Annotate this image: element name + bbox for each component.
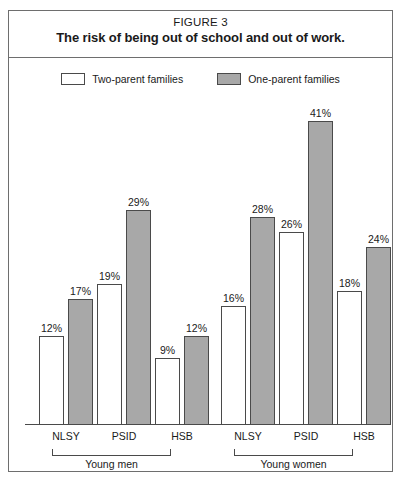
category-label-psid-1: PSID bbox=[96, 430, 152, 442]
bar bbox=[308, 121, 333, 425]
white-square-icon bbox=[61, 73, 85, 85]
bar-value-label: 19% bbox=[91, 270, 128, 282]
group-axis: Young menYoung women bbox=[25, 449, 378, 479]
group-bracket-icon bbox=[234, 449, 353, 456]
bar-value-label: 18% bbox=[331, 277, 368, 289]
category-axis: NLSYPSIDHSBNLSYPSIDHSB bbox=[25, 430, 378, 446]
bar-chart-plot-area: 12%17%19%29%9%12%16%28%26%41%18%24% bbox=[25, 106, 378, 425]
group-label: Young women bbox=[234, 458, 353, 470]
bar bbox=[337, 291, 362, 425]
figure-number: FIGURE 3 bbox=[9, 16, 392, 28]
bar-value-label: 16% bbox=[215, 292, 252, 304]
category-label-nlsy-3: NLSY bbox=[220, 430, 276, 442]
bar-value-label: 41% bbox=[302, 107, 339, 119]
bar-value-label: 28% bbox=[244, 203, 281, 215]
category-label-nlsy-0: NLSY bbox=[38, 430, 94, 442]
category-label-psid-4: PSID bbox=[278, 430, 334, 442]
bar bbox=[279, 232, 304, 425]
bar-value-label: 12% bbox=[178, 322, 215, 334]
group-bracket-icon bbox=[52, 449, 171, 456]
bar-value-label: 9% bbox=[149, 344, 186, 356]
bar bbox=[68, 299, 93, 425]
legend-item-two-parent: Two-parent families bbox=[61, 73, 183, 85]
page-title: The risk of being out of school and out … bbox=[9, 30, 392, 45]
bar bbox=[221, 306, 246, 425]
bar bbox=[39, 336, 64, 425]
category-label-hsb-5: HSB bbox=[336, 430, 392, 442]
bar-value-label: 24% bbox=[360, 233, 397, 245]
category-label-hsb-2: HSB bbox=[154, 430, 210, 442]
legend-item-one-parent: One-parent families bbox=[217, 73, 340, 85]
bar-value-label: 29% bbox=[120, 196, 157, 208]
group-bracket-container: Young women bbox=[234, 449, 353, 470]
figure-panel: FIGURE 3 The risk of being out of school… bbox=[8, 10, 393, 472]
bar-value-label: 26% bbox=[273, 218, 310, 230]
chart-legend: Two-parent families One-parent families bbox=[9, 73, 392, 85]
bar bbox=[366, 247, 391, 425]
bar bbox=[184, 336, 209, 425]
group-bracket-container: Young men bbox=[52, 449, 171, 470]
figure-title-block: FIGURE 3 The risk of being out of school… bbox=[9, 11, 392, 58]
bar bbox=[155, 358, 180, 425]
bar bbox=[97, 284, 122, 425]
legend-label-one-parent: One-parent families bbox=[248, 73, 340, 85]
legend-label-two-parent: Two-parent families bbox=[92, 73, 183, 85]
gray-square-icon bbox=[217, 73, 241, 85]
bar bbox=[250, 217, 275, 425]
bar bbox=[126, 210, 151, 425]
bar-value-label: 17% bbox=[62, 285, 99, 297]
bar-value-label: 12% bbox=[33, 322, 70, 334]
group-label: Young men bbox=[52, 458, 171, 470]
